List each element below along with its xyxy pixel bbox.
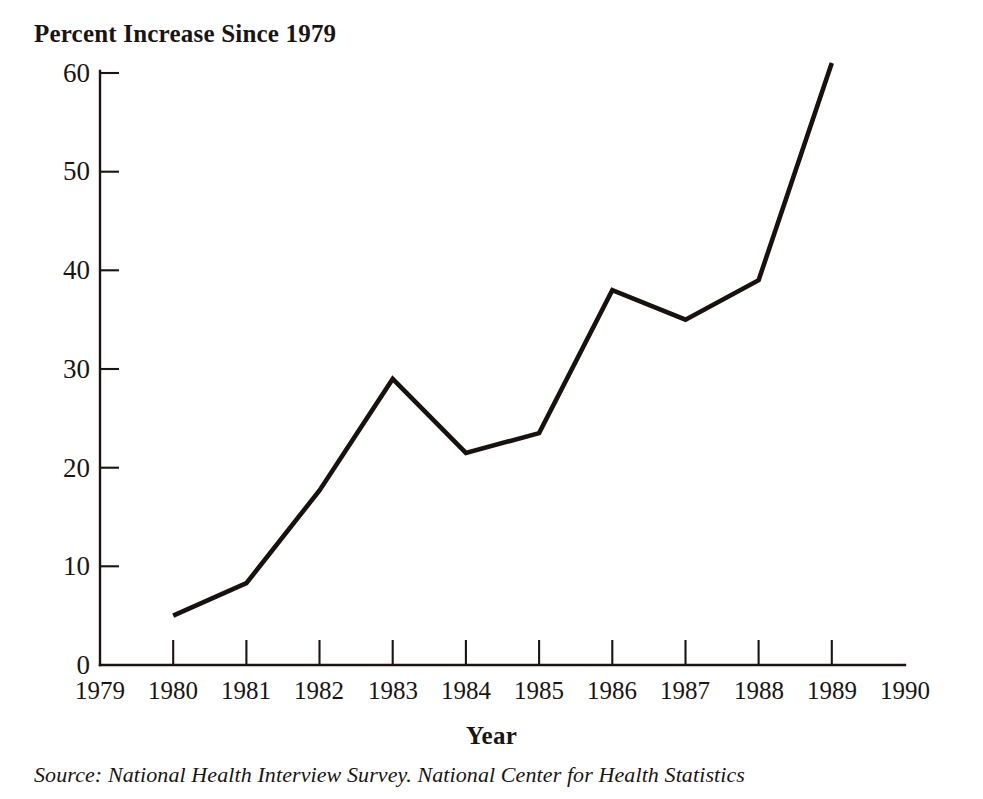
chart-plot-area: 60 50 40 30 20 10 0 1979 1980 1981 1982 …: [0, 0, 983, 799]
axes-group: [100, 71, 905, 665]
y-tick-label-0: 0: [24, 652, 90, 679]
source-note: Source: National Health Interview Survey…: [34, 762, 745, 788]
y-axis-ticks: [100, 73, 119, 566]
x-axis-ticks: [173, 640, 832, 665]
data-series-line: [173, 63, 832, 616]
y-tick-label-50: 50: [24, 158, 90, 185]
y-tick-label-60: 60: [24, 60, 90, 87]
y-tick-label-20: 20: [24, 455, 90, 482]
x-tick-label-1990: 1990: [860, 678, 950, 703]
y-tick-label-30: 30: [24, 356, 90, 383]
y-tick-label-10: 10: [24, 553, 90, 580]
y-tick-label-40: 40: [24, 257, 90, 284]
x-axis-title: Year: [0, 722, 983, 750]
